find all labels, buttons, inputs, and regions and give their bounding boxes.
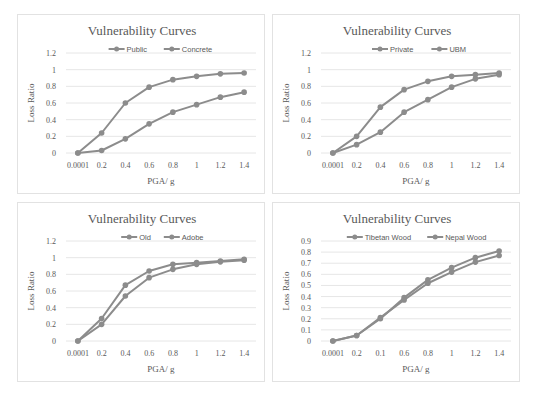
x-tick-label: 0.1	[375, 349, 385, 358]
x-tick-label: 0.8	[423, 349, 433, 358]
data-point	[401, 109, 407, 115]
x-tick-label: 0.0001	[322, 349, 344, 358]
data-point	[218, 94, 224, 100]
data-point	[170, 109, 176, 115]
data-point	[378, 104, 384, 110]
data-point	[378, 315, 384, 321]
y-tick-label: 0.3	[301, 304, 311, 313]
x-axis-label: PGA/ g	[147, 364, 175, 374]
data-point	[354, 142, 360, 148]
chart-public-concrete: Vulnerability Curves00.20.40.60.811.20.0…	[17, 14, 265, 194]
data-point	[123, 136, 129, 142]
x-tick-label: 1	[450, 349, 454, 358]
data-point	[146, 121, 152, 127]
legend-label: Nepal Wood	[445, 233, 486, 242]
y-tick-label: 0.4	[301, 116, 311, 125]
legend-marker-icon	[437, 47, 442, 52]
y-tick-label: 0.7	[301, 259, 311, 268]
legend-marker-icon	[169, 47, 174, 52]
y-tick-label: 0.4	[46, 116, 56, 125]
x-tick-label: 0.6	[144, 349, 154, 358]
data-point	[449, 84, 455, 90]
legend-label: Public	[127, 45, 148, 54]
x-axis-label: PGA/ g	[402, 176, 430, 186]
y-tick-label: 0.2	[301, 132, 311, 141]
y-tick-label: 0.2	[46, 320, 56, 329]
x-tick-label: 1.2	[215, 349, 225, 358]
data-point	[218, 259, 224, 265]
legend-marker-icon	[378, 47, 383, 52]
legend-label: Tibetan Wood	[365, 233, 411, 242]
y-axis-label: Loss Ratio	[281, 271, 291, 310]
data-point	[75, 150, 81, 156]
data-point	[146, 268, 152, 274]
y-tick-label: 0.4	[46, 304, 56, 313]
chart-title: Vulnerability Curves	[88, 211, 197, 226]
chart-old-adobe: Vulnerability Curves00.20.40.60.811.20.0…	[17, 202, 265, 382]
legend-marker-icon	[127, 235, 132, 240]
x-tick-label: 1.2	[215, 161, 225, 170]
series-adobe	[75, 257, 247, 343]
data-point	[146, 84, 152, 90]
y-tick-label: 0.8	[46, 82, 56, 91]
x-tick-label: 0.8	[168, 349, 178, 358]
y-tick-label: 0	[52, 149, 56, 158]
series-line	[333, 73, 499, 153]
data-point	[99, 148, 105, 154]
y-tick-label: 0.6	[301, 99, 311, 108]
data-point	[330, 150, 336, 156]
x-tick-label: 0.0001	[67, 161, 89, 170]
y-tick-label: 0.4	[301, 293, 311, 302]
legend: PublicConcrete	[109, 45, 213, 54]
x-tick-label: 0.6	[399, 161, 409, 170]
y-tick-label: 0.6	[46, 99, 56, 108]
y-tick-label: 0.6	[46, 287, 56, 296]
y-tick-label: 0.1	[301, 326, 311, 335]
legend-label: Private	[390, 45, 413, 54]
y-tick-label: 0	[307, 149, 311, 158]
data-point	[241, 70, 247, 76]
series-line	[78, 73, 244, 153]
data-point	[241, 89, 247, 95]
y-tick-label: 0.8	[301, 82, 311, 91]
x-tick-label: 0.0001	[322, 161, 344, 170]
x-tick-label: 0.4	[120, 161, 130, 170]
x-tick-label: 1.2	[470, 349, 480, 358]
series-old	[75, 257, 247, 344]
data-point	[449, 269, 455, 275]
legend-marker-icon	[114, 47, 119, 52]
legend: OldAdobe	[121, 233, 203, 242]
y-tick-label: 0.5	[301, 281, 311, 290]
data-point	[99, 130, 105, 136]
legend-marker-icon	[169, 235, 174, 240]
data-point	[218, 71, 224, 77]
y-tick-label: 1.2	[46, 49, 56, 58]
x-tick-label: 0.6	[399, 349, 409, 358]
data-point	[170, 77, 176, 83]
series-public	[75, 70, 247, 156]
x-tick-label: 0.6	[144, 161, 154, 170]
x-tick-label: 1.4	[239, 161, 249, 170]
x-tick-label: 0.8	[168, 161, 178, 170]
data-point	[354, 333, 360, 339]
y-tick-label: 1	[52, 254, 56, 263]
y-tick-label: 1	[52, 66, 56, 75]
x-tick-label: 0.2	[97, 161, 107, 170]
data-point	[170, 267, 176, 273]
x-tick-label: 1	[450, 161, 454, 170]
series-line	[78, 259, 244, 341]
x-tick-label: 0.4	[120, 349, 130, 358]
legend-label: Adobe	[182, 233, 204, 242]
data-point	[75, 338, 81, 344]
series-line	[78, 260, 244, 341]
y-tick-label: 0.6	[301, 270, 311, 279]
x-tick-label: 1	[195, 349, 199, 358]
data-point	[330, 338, 336, 344]
chart-private-ubm: Vulnerability Curves00.20.40.60.811.20.0…	[272, 14, 520, 194]
x-axis-label: PGA/ g	[147, 176, 175, 186]
legend-marker-icon	[352, 235, 357, 240]
chart-tibetan-nepal-wood: Vulnerability Curves00.10.20.30.40.50.60…	[272, 202, 520, 382]
data-point	[123, 282, 129, 288]
data-point	[449, 74, 455, 80]
data-point	[123, 100, 129, 106]
